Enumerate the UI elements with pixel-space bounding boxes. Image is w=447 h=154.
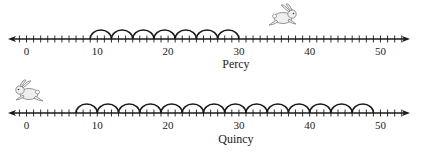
hop-arc bbox=[175, 30, 196, 39]
hop-arc bbox=[310, 104, 331, 113]
hop-arc bbox=[119, 104, 140, 113]
hop-arc bbox=[331, 104, 352, 113]
hop-arc bbox=[97, 104, 118, 113]
number-line-label: Quincy bbox=[218, 132, 253, 146]
number-line-label: Percy bbox=[222, 57, 249, 71]
tick-label: 0 bbox=[24, 119, 30, 131]
hop-arc bbox=[352, 104, 373, 113]
hop-arc bbox=[267, 104, 288, 113]
rabbit-hind-leg bbox=[269, 20, 278, 25]
tick-label: 20 bbox=[163, 119, 175, 131]
tick-label: 10 bbox=[92, 119, 104, 131]
rabbit-hind-leg bbox=[34, 96, 43, 101]
hop-arc bbox=[76, 104, 97, 113]
tick-label: 30 bbox=[233, 45, 245, 57]
hop-arc bbox=[161, 104, 182, 113]
rabbit-icon bbox=[269, 4, 296, 25]
hop-arc bbox=[225, 104, 246, 113]
rabbit-tail bbox=[36, 90, 40, 94]
tick-label: 50 bbox=[375, 119, 387, 131]
tick-label: 20 bbox=[163, 45, 175, 57]
number-line-diagram: 01020304050Percy01020304050Quincy Percy … bbox=[0, 0, 447, 154]
tick-label: 30 bbox=[233, 119, 245, 131]
rabbit-eye bbox=[293, 13, 295, 15]
hop-arc bbox=[288, 104, 309, 113]
tick-label: 10 bbox=[92, 45, 104, 57]
tick-label: 50 bbox=[375, 45, 387, 57]
rabbit-icon bbox=[16, 80, 43, 101]
tick-label: 40 bbox=[304, 119, 316, 131]
tick-label: 0 bbox=[24, 45, 30, 57]
hop-arc bbox=[218, 30, 239, 39]
hop-arc bbox=[133, 30, 154, 39]
number-line-percy: 01020304050Percy bbox=[8, 4, 410, 71]
hop-arc bbox=[204, 104, 225, 113]
tick-label: 40 bbox=[304, 45, 316, 57]
hop-arc bbox=[246, 104, 267, 113]
hop-arc bbox=[111, 30, 132, 39]
hop-arc bbox=[90, 30, 111, 39]
hop-arc bbox=[196, 30, 217, 39]
hop-arc bbox=[182, 104, 203, 113]
diagram-canvas: 01020304050Percy01020304050Quincy bbox=[0, 0, 447, 154]
hop-arc bbox=[154, 30, 175, 39]
rabbit-eye bbox=[18, 89, 20, 91]
rabbit-tail bbox=[273, 14, 277, 18]
hop-arc bbox=[140, 104, 161, 113]
number-line-quincy: 01020304050Quincy bbox=[8, 80, 410, 146]
